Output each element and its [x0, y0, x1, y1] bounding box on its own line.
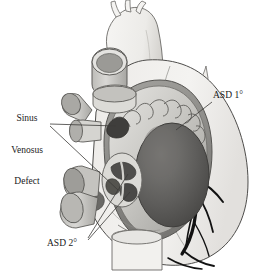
label-line-sinus: Sinus — [3, 113, 51, 124]
fossa-ovalis — [102, 153, 142, 207]
label-asd-secundum: ASD 2° — [47, 238, 77, 249]
label-line-venosus: Venosus — [3, 145, 51, 156]
pulmonary-vein-stump-middle — [70, 120, 102, 142]
pulmonary-vein-stump-upper — [58, 90, 92, 122]
aorta-branch-left-carotid — [125, 0, 131, 12]
label-line-defect: Defect — [3, 176, 51, 187]
svc-lower-stump — [93, 85, 136, 113]
asd-illustration-figure: Sinus Venosus Defect ASD 1° ASD 2° — [0, 0, 261, 272]
ivc-trunk-rim — [112, 230, 162, 244]
label-asd-primum: ASD 1° — [213, 90, 243, 101]
asd-secundum-opening-left — [106, 179, 120, 195]
aorta-branch-brachiocephalic — [111, 1, 121, 17]
tricuspid-orifice-highlight — [142, 126, 178, 178]
ivc-stump — [58, 191, 98, 228]
label-sinus-venosus-defect: Sinus Venosus Defect — [3, 92, 51, 208]
